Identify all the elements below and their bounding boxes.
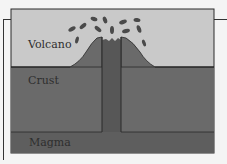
volcano-vent xyxy=(102,38,121,132)
crust-label: Crust xyxy=(28,74,59,87)
volcano-label: Volcano xyxy=(28,38,72,51)
magma-label: Magma xyxy=(29,136,71,149)
